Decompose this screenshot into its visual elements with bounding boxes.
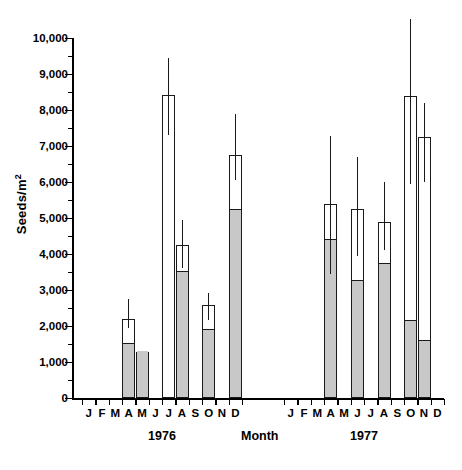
- x-axis-tick: [417, 399, 418, 405]
- error-bar: [128, 299, 129, 328]
- x-axis-tick: [242, 399, 243, 405]
- x-axis-month-label: D: [227, 407, 243, 419]
- error-bar: [208, 293, 209, 320]
- y-axis-minor-tick: [68, 272, 72, 273]
- error-bar: [384, 182, 385, 250]
- y-axis-tick-label: 6,000: [10, 177, 68, 187]
- x-axis-month-label: D: [429, 407, 445, 419]
- x-axis-tick: [202, 399, 203, 405]
- panel-year-label-1976: 1976: [132, 429, 192, 443]
- bar-shaded-segment: [352, 280, 363, 397]
- x-axis-tick: [284, 399, 285, 405]
- x-axis-tick: [364, 399, 365, 405]
- y-axis-tick-label: 5,000: [10, 213, 68, 223]
- error-bar: [235, 114, 236, 180]
- y-axis-major-tick: [65, 290, 72, 291]
- y-axis-tick-label: 9,000: [10, 69, 68, 79]
- x-axis-tick: [122, 399, 123, 405]
- x-axis-line: [72, 398, 444, 400]
- error-bar: [424, 103, 425, 182]
- y-axis-tick-labels: 01,0002,0003,0004,0005,0006,0007,0008,00…: [10, 0, 68, 470]
- y-axis-tick-label: 1,000: [10, 357, 68, 367]
- x-axis-tick: [311, 399, 312, 405]
- y-axis-minor-tick: [68, 380, 72, 381]
- bar: [229, 155, 242, 398]
- y-axis-major-tick: [65, 326, 72, 327]
- y-axis-line: [72, 38, 74, 398]
- y-axis-minor-tick: [68, 344, 72, 345]
- panel-year-label-1977: 1977: [334, 429, 394, 443]
- y-axis-tick-label: 7,000: [10, 141, 68, 151]
- x-axis-tick: [162, 399, 163, 405]
- y-axis-major-tick: [65, 110, 72, 111]
- x-axis-tick: [95, 399, 96, 405]
- x-axis-tick: [109, 399, 110, 405]
- bar-shaded-segment: [230, 209, 241, 397]
- y-axis-minor-tick: [68, 236, 72, 237]
- y-axis-major-tick: [65, 254, 72, 255]
- x-axis-tick: [297, 399, 298, 405]
- x-axis-tick: [175, 399, 176, 405]
- y-axis-major-tick: [65, 74, 72, 75]
- y-axis-minor-tick: [68, 200, 72, 201]
- x-axis-tick: [431, 399, 432, 405]
- bar: [162, 95, 175, 398]
- y-axis-major-tick: [65, 218, 72, 219]
- seeds-per-m2-bar-chart: Seeds/m2 01,0002,0003,0004,0005,0006,000…: [0, 0, 462, 470]
- bar-shaded-segment: [123, 343, 134, 397]
- x-axis-tick: [189, 399, 190, 405]
- y-axis-minor-tick: [68, 164, 72, 165]
- y-axis-tick-label: 3,000: [10, 285, 68, 295]
- x-axis-tick: [351, 399, 352, 405]
- bar: [122, 319, 135, 398]
- plot-area: JFMAMJJASONDJFMAMJJASOND: [72, 38, 444, 398]
- y-axis-major-tick: [65, 398, 72, 399]
- error-bar: [182, 220, 183, 269]
- y-axis-minor-tick: [68, 128, 72, 129]
- y-axis-minor-tick: [68, 56, 72, 57]
- bar-shaded-segment: [405, 320, 416, 397]
- y-axis-major-tick: [65, 362, 72, 363]
- y-axis-major-tick: [65, 146, 72, 147]
- error-bar: [168, 58, 169, 135]
- y-axis-major-tick: [65, 38, 72, 39]
- error-bar: [330, 136, 331, 274]
- y-axis-tick-label: 10,000: [10, 33, 68, 43]
- bar-shaded-segment: [177, 271, 188, 397]
- y-axis-tick-label: 4,000: [10, 249, 68, 259]
- bar-shaded-segment: [379, 263, 390, 397]
- x-axis-tick: [229, 399, 230, 405]
- error-bar: [357, 157, 358, 256]
- x-axis-tick: [149, 399, 150, 405]
- bar: [136, 352, 149, 398]
- x-axis-tick: [377, 399, 378, 405]
- x-axis-tick: [82, 399, 83, 405]
- x-axis-tick: [391, 399, 392, 405]
- error-bar: [410, 19, 411, 184]
- y-axis-tick-label: 8,000: [10, 105, 68, 115]
- bar-shaded-segment: [203, 329, 214, 397]
- y-axis-tick-label: 0: [10, 393, 68, 403]
- y-axis-tick-label: 2,000: [10, 321, 68, 331]
- y-axis-minor-tick: [68, 308, 72, 309]
- bar-shaded-segment: [137, 351, 148, 397]
- x-axis-tick: [135, 399, 136, 405]
- x-axis-title: Month: [241, 429, 278, 443]
- x-axis-tick: [337, 399, 338, 405]
- bar-shaded-segment: [419, 340, 430, 397]
- y-axis-major-tick: [65, 182, 72, 183]
- x-axis-tick: [404, 399, 405, 405]
- x-axis-tick: [215, 399, 216, 405]
- x-axis-tick: [324, 399, 325, 405]
- x-axis-tick: [444, 399, 445, 405]
- y-axis-minor-tick: [68, 92, 72, 93]
